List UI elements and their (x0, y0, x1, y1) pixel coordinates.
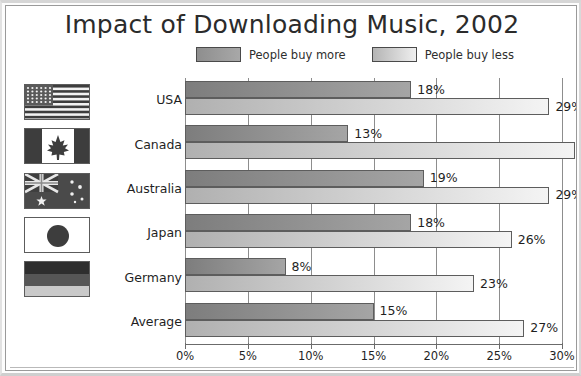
category-label-germany: Germany (96, 270, 182, 285)
value-label-buy-less-usa: 29% (555, 101, 577, 114)
legend-label-buy-less: People buy less (425, 48, 514, 62)
bar-buy-less-average (185, 320, 524, 337)
chart-image-frame: Impact of Downloading Music, 2002 People… (0, 0, 581, 376)
value-label-buy-more-usa: 18% (417, 84, 445, 97)
bar-group-usa: 18%29% (185, 78, 562, 122)
bar-buy-less-usa (185, 98, 549, 115)
x-axis-tick-labels: 0%5%10%15%20%25%30% (185, 349, 562, 369)
flag-usa-icon (24, 84, 90, 120)
bar-buy-less-japan (185, 231, 512, 248)
category-label-australia: Australia (96, 181, 182, 196)
x-tick-label-25pct: 25% (486, 349, 512, 363)
value-label-buy-more-canada: 13% (354, 128, 382, 141)
x-tick-label-0pct: 0% (176, 349, 194, 363)
bar-group-germany: 8%23% (185, 255, 562, 299)
value-label-buy-less-average: 27% (530, 322, 558, 335)
bar-group-canada: 13%31% (185, 122, 562, 166)
bar-group-japan: 18%26% (185, 211, 562, 255)
legend-item-buy-less: People buy less (372, 47, 514, 62)
chart-legend: People buy more People buy less (196, 47, 514, 62)
bar-buy-more-australia (185, 170, 424, 187)
x-tick-label-30pct: 30% (549, 349, 575, 363)
x-tick-label-15pct: 15% (361, 349, 387, 363)
legend-item-buy-more: People buy more (196, 47, 346, 62)
bar-buy-more-japan (185, 214, 411, 231)
category-label-usa: USA (96, 92, 182, 107)
bar-group-average: 15%27% (185, 300, 562, 344)
category-label-japan: Japan (96, 225, 182, 240)
category-label-canada: Canada (96, 137, 182, 152)
value-label-buy-more-germany: 8% (292, 261, 312, 274)
value-label-buy-less-japan: 26% (518, 234, 546, 247)
value-label-buy-more-japan: 18% (417, 217, 445, 230)
chart-title: Impact of Downloading Music, 2002 (6, 10, 577, 39)
flag-japan-icon (24, 217, 90, 253)
bar-buy-more-usa (185, 81, 411, 98)
bottom-rule (10, 367, 574, 368)
legend-swatch-buy-more-icon (196, 47, 241, 62)
bar-group-australia: 19%29% (185, 167, 562, 211)
value-label-buy-more-average: 15% (380, 305, 408, 318)
legend-swatch-buy-less-icon (372, 47, 417, 62)
legend-label-buy-more: People buy more (249, 48, 346, 62)
chart-canvas: Impact of Downloading Music, 2002 People… (5, 5, 577, 371)
bar-buy-less-australia (185, 187, 549, 204)
flag-canada-icon (24, 128, 90, 164)
flag-australia-icon (24, 173, 90, 209)
flag-column (24, 82, 90, 344)
bar-buy-less-canada (185, 142, 575, 159)
bar-buy-more-canada (185, 125, 348, 142)
bar-buy-more-germany (185, 258, 286, 275)
value-label-buy-more-australia: 19% (430, 172, 458, 185)
value-label-buy-less-germany: 23% (480, 278, 508, 291)
category-label-column: USACanadaAustraliaJapanGermanyAverage (96, 78, 182, 344)
flag-germany-icon (24, 261, 90, 297)
gridline-30pct (562, 78, 563, 344)
x-tick-label-10pct: 10% (298, 349, 324, 363)
x-tick-label-20pct: 20% (424, 349, 450, 363)
plot-area: 18%29%13%31%19%29%18%26%8%23%15%27% (185, 78, 562, 344)
category-label-average: Average (96, 314, 182, 329)
bar-buy-more-average (185, 303, 374, 320)
bar-buy-less-germany (185, 275, 474, 292)
value-label-buy-less-australia: 29% (555, 189, 577, 202)
x-tick-label-5pct: 5% (239, 349, 257, 363)
